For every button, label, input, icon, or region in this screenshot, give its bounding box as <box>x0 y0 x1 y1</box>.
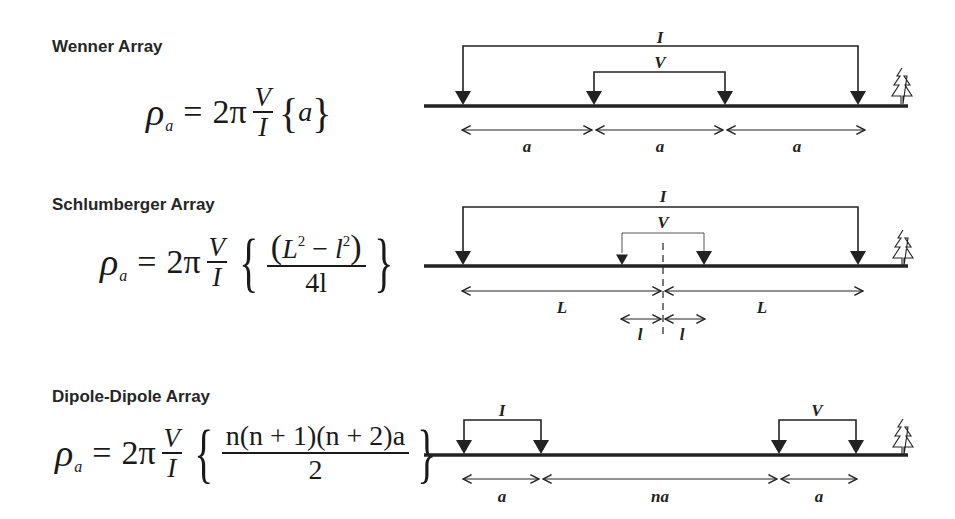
spacing-label: na <box>651 487 669 506</box>
potential-label: V <box>811 401 824 420</box>
tree-icon <box>893 419 913 455</box>
dipole-dipole-diagram: I V a na a <box>424 401 913 506</box>
electrode-triangle-icon <box>455 251 471 265</box>
electrode-triangle-icon <box>848 440 864 454</box>
current-dipole <box>464 420 541 441</box>
inner-spacing-label: l <box>638 325 643 344</box>
current-label: I <box>656 28 665 47</box>
schlumberger-diagram: I V L L l l <box>424 187 913 344</box>
tree-icon <box>892 68 912 104</box>
electrode-array-diagrams: I V a a a I V L L l l <box>0 0 955 519</box>
spacing-label: a <box>523 137 532 156</box>
current-label: I <box>498 401 507 420</box>
electrode-triangle-icon <box>456 440 472 454</box>
electrode-triangle-icon <box>616 255 628 266</box>
spacing-label: a <box>498 487 507 506</box>
electrode-triangle-icon <box>696 251 712 265</box>
potential-label: V <box>657 213 670 232</box>
spacing-label: L <box>556 298 567 317</box>
electrode-triangle-icon <box>850 91 866 105</box>
electrode-triangle-icon <box>533 440 549 454</box>
spacing-label: a <box>815 487 824 506</box>
electrode-triangle-icon <box>771 440 787 454</box>
spacing-label: a <box>793 137 802 156</box>
current-label: I <box>659 187 668 206</box>
potential-circuit <box>594 72 725 92</box>
wenner-diagram: I V a a a <box>424 28 912 156</box>
electrode-triangle-icon <box>717 91 733 105</box>
electrode-triangle-icon <box>850 251 866 265</box>
spacing-label: a <box>656 137 665 156</box>
spacing-label: L <box>756 298 767 317</box>
electrode-triangle-icon <box>455 91 471 105</box>
potential-label: V <box>654 53 667 72</box>
tree-icon <box>893 230 913 266</box>
electrode-triangle-icon <box>586 91 602 105</box>
potential-dipole <box>779 420 856 441</box>
inner-spacing-label: l <box>680 325 685 344</box>
